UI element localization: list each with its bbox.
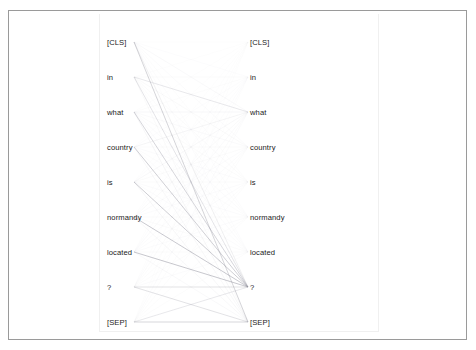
left-token-column: [CLS]inwhatcountryisnormandylocated?[SEP… xyxy=(107,0,197,350)
token-right-6[interactable]: located xyxy=(250,248,275,257)
token-left-4[interactable]: is xyxy=(107,178,113,187)
token-right-2[interactable]: what xyxy=(250,108,266,117)
token-left-0[interactable]: [CLS] xyxy=(107,38,127,47)
token-right-0[interactable]: [CLS] xyxy=(250,38,270,47)
token-left-1[interactable]: in xyxy=(107,73,113,82)
token-left-2[interactable]: what xyxy=(107,108,123,117)
token-right-1[interactable]: in xyxy=(250,73,256,82)
token-right-7[interactable]: ? xyxy=(250,283,254,292)
token-right-4[interactable]: is xyxy=(250,178,256,187)
token-right-5[interactable]: normandy xyxy=(250,213,285,222)
token-left-3[interactable]: country xyxy=(107,143,133,152)
token-left-5[interactable]: normandy xyxy=(107,213,142,222)
token-left-6[interactable]: located xyxy=(107,248,132,257)
token-right-8[interactable]: [SEP] xyxy=(250,318,270,327)
token-left-8[interactable]: [SEP] xyxy=(107,318,127,327)
right-token-column: [CLS]inwhatcountryisnormandylocated?[SEP… xyxy=(250,0,340,350)
token-right-3[interactable]: country xyxy=(250,143,276,152)
token-left-7[interactable]: ? xyxy=(107,283,111,292)
attention-visualization-page: [CLS]inwhatcountryisnormandylocated?[SEP… xyxy=(0,0,476,350)
